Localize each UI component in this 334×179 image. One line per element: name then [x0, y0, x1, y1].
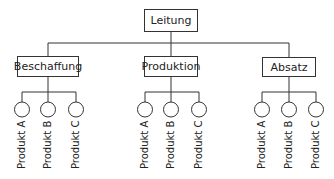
department-node-absatz: Absatz	[262, 57, 316, 77]
product-node	[41, 102, 56, 117]
product-node	[192, 102, 207, 117]
product-label: Produkt C	[310, 121, 321, 169]
root-node-leitung: Leitung	[144, 9, 198, 32]
department-node-beschaffung: Beschaffung	[17, 56, 79, 77]
product-label: Produkt A	[16, 121, 27, 169]
product-node	[69, 102, 84, 117]
product-label: Produkt C	[193, 121, 204, 169]
product-label: Produkt B	[42, 121, 53, 169]
product-node	[255, 102, 270, 117]
product-node	[282, 102, 297, 117]
product-node	[164, 102, 179, 117]
product-label: Produkt A	[139, 121, 150, 169]
product-node	[138, 102, 153, 117]
product-node	[15, 102, 30, 117]
department-node-produktion: Produktion	[144, 56, 198, 77]
product-node	[309, 102, 324, 117]
product-label: Produkt C	[70, 121, 81, 169]
product-label: Produkt B	[283, 121, 294, 169]
product-label: Produkt A	[256, 121, 267, 169]
product-label: Produkt B	[165, 121, 176, 169]
